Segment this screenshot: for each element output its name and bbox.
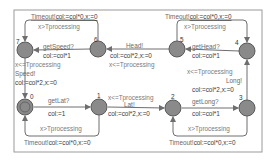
assign-head: col:=col*2,x:=0 bbox=[110, 52, 152, 59]
location-2[interactable] bbox=[165, 100, 181, 116]
location-id-label: 7 bbox=[16, 38, 20, 45]
invariant-7: x<=Tprocessing bbox=[15, 61, 61, 69]
sync-head: Head! bbox=[126, 42, 143, 49]
location-id-label: 5 bbox=[180, 36, 184, 43]
guard-top-right: x>Tprocessing bbox=[184, 23, 226, 31]
sync-speed: Speed! bbox=[15, 70, 35, 78]
sync-lat: Lat! bbox=[124, 101, 135, 108]
location-id-label: 1 bbox=[97, 92, 101, 99]
location-1[interactable] bbox=[91, 99, 107, 115]
label-timeout-bottom-right: Timeout!col:=col*0,x:=0 bbox=[169, 139, 236, 146]
label-timeout-top-right: Timeout!col:=col*0,x:=0 bbox=[165, 13, 232, 20]
assign-speed: col:=col*2,x:=0 bbox=[15, 79, 57, 86]
timed-automaton-diagram: 01234567 Timeout!col:=col*0,x:=0 x>Tproc… bbox=[0, 0, 271, 161]
sync-getlong: getLong? bbox=[192, 98, 219, 106]
location-id-label: 0 bbox=[30, 93, 34, 100]
assign-long: col:=col*2,x:=0 bbox=[192, 86, 234, 93]
location-5[interactable] bbox=[169, 41, 185, 57]
location-id-label: 3 bbox=[239, 94, 243, 101]
label-timeout-top-left: Timeout!col:=col*0,x:=0 bbox=[31, 13, 98, 20]
assign-gethead: col:=col*1 bbox=[192, 52, 220, 59]
location-4[interactable] bbox=[239, 43, 255, 59]
assign-getlat: col:=1 bbox=[48, 110, 66, 117]
assign-getspeed: col:=col*1 bbox=[43, 52, 71, 59]
assign-getlong: col:=col*1 bbox=[192, 110, 220, 117]
sync-getlat: getLat? bbox=[48, 97, 70, 105]
sync-long: Long! bbox=[226, 77, 242, 85]
location-id-label: 6 bbox=[94, 36, 98, 43]
guard-top-left: x>Tprocessing bbox=[38, 23, 80, 31]
label-timeout-bottom-left: Timeout!col:=col*0,x:=0 bbox=[24, 139, 91, 146]
location-3[interactable] bbox=[239, 100, 255, 116]
sync-getspeed: getSpeed? bbox=[43, 43, 74, 51]
location-id-label: 4 bbox=[235, 39, 239, 46]
location-id-label: 2 bbox=[171, 93, 175, 100]
guard-bottom-left: x>Tprocessing bbox=[40, 125, 82, 133]
location-0[interactable] bbox=[17, 99, 33, 115]
sync-gethead: getHead? bbox=[192, 43, 220, 51]
guard-bottom-right: x>Tprocessing bbox=[188, 125, 230, 133]
location-6[interactable] bbox=[90, 41, 106, 57]
assign-lat: col:=col*2,x:=0 bbox=[108, 110, 150, 117]
invariant-5: x<=Tprocessing bbox=[109, 61, 155, 69]
invariant-4: x<=Tprocessing bbox=[187, 68, 233, 76]
